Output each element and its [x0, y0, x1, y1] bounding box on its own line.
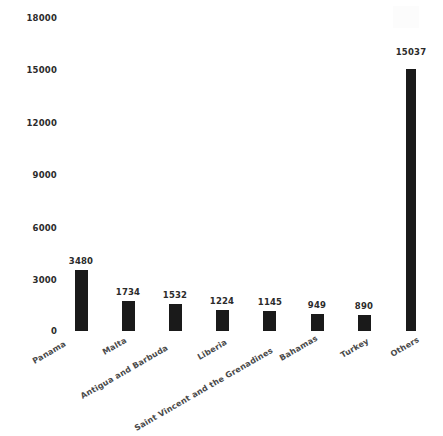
value-label-turkey: 890: [334, 301, 394, 311]
x-tick-label-panama: Panama: [31, 339, 68, 366]
bar-bahamas[interactable]: [311, 314, 324, 331]
x-tick-label-liberia: Liberia: [196, 338, 229, 363]
y-tick-label-3000: 3000: [5, 275, 57, 285]
x-tick-label-turkey: Turkey: [339, 336, 371, 360]
bar-chart: 18000 15000 12000 9000 6000 3000 0 3480 …: [0, 0, 443, 436]
x-tick-label-antigua-and-barbuda: Antigua and Barbuda: [79, 343, 170, 401]
bar-others[interactable]: [406, 69, 416, 331]
value-label-panama: 3480: [51, 256, 111, 266]
x-tick-label-others: Others: [389, 335, 421, 359]
bar-saint-vincent-and-the-grenadines[interactable]: [263, 311, 276, 331]
y-tick-label-15000: 15000: [5, 65, 57, 75]
bar-panama[interactable]: [75, 270, 88, 331]
plot-area: 18000 15000 12000 9000 6000 3000 0 3480 …: [0, 0, 443, 436]
x-tick-label-bahamas: Bahamas: [278, 334, 320, 364]
scan-artifact: [393, 6, 419, 28]
y-tick-label-12000: 12000: [5, 118, 57, 128]
y-tick-label-6000: 6000: [5, 223, 57, 233]
y-tick-label-18000: 18000: [5, 13, 57, 23]
y-tick-label-0: 0: [5, 326, 57, 336]
bar-turkey[interactable]: [358, 315, 371, 331]
bar-liberia[interactable]: [216, 310, 229, 331]
x-tick-label-malta: Malta: [101, 336, 129, 358]
y-tick-label-9000: 9000: [5, 170, 57, 180]
bar-malta[interactable]: [122, 301, 135, 331]
value-label-others: 15037: [381, 47, 441, 57]
bar-antigua-and-barbuda[interactable]: [169, 304, 182, 331]
